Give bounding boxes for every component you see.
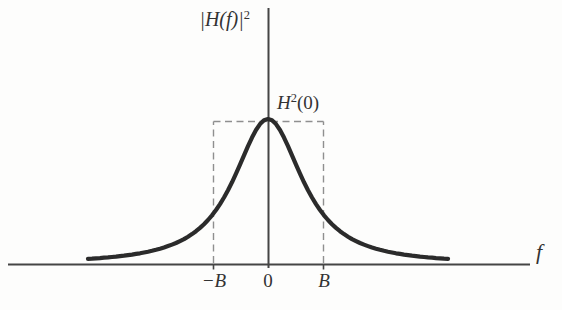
tick-label-zero: 0 [246,271,290,290]
peak-label: H2(0) [277,92,319,112]
plot-svg [0,0,562,310]
tick-label-neg-b: −B [192,271,236,290]
tick-label-pos-b: B [302,271,346,290]
peak-label-base: H [277,92,291,113]
peak-label-arg: (0) [297,92,319,113]
y-axis-label-sup: 2 [244,8,250,22]
y-axis-label-base: |H(f)| [199,8,243,30]
y-axis-label: |H(f)|2 [188,9,250,29]
x-axis-label: f [536,241,542,263]
figure-canvas: |H(f)|2 H2(0) f −B 0 B [0,0,562,310]
